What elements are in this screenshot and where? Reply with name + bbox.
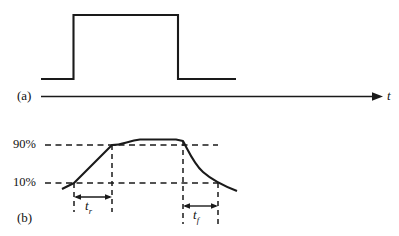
time-axis-arrowhead-icon	[372, 92, 383, 100]
rise-arrow-right-head-icon	[105, 194, 112, 200]
rise-time-label: tr	[85, 199, 92, 215]
level-label-10-percent: 10%	[13, 176, 36, 189]
fall-time-subscript: f	[197, 215, 199, 225]
panel-label-b: (b)	[17, 211, 32, 224]
rise-time-subscript: r	[89, 206, 92, 216]
panel-a-group	[41, 15, 383, 101]
fall-arrow-left-head-icon	[183, 203, 190, 209]
rise-time-arrow	[74, 194, 112, 200]
pulse-waveform-figure: (a) t 90% 10% tr tf (b)	[0, 0, 399, 236]
figure-canvas	[0, 0, 399, 236]
fall-time-label: tf	[193, 208, 199, 224]
level-label-90-percent: 90%	[13, 138, 36, 151]
fall-arrow-right-head-icon	[211, 203, 218, 209]
fall-time-arrow	[183, 203, 218, 209]
panel-b-group	[45, 140, 237, 225]
rise-arrow-left-head-icon	[74, 194, 81, 200]
time-axis-label: t	[387, 89, 391, 102]
ideal-pulse-waveform	[41, 15, 236, 79]
panel-label-a: (a)	[17, 89, 31, 102]
